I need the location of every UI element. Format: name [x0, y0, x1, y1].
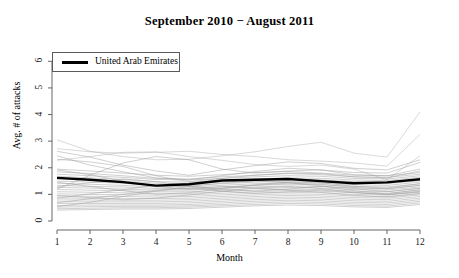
x-axis-tick-label: 12	[410, 237, 430, 247]
legend-line-swatch	[62, 61, 88, 64]
y-axis-tick-label: 1	[34, 185, 44, 201]
y-axis-tick-label: 5	[34, 79, 44, 95]
y-axis-tick-label: 0	[34, 212, 44, 228]
chart-figure: September 2010 − August 2011 Avg. # of a…	[0, 0, 459, 278]
x-axis-tick-label: 2	[80, 237, 100, 247]
x-axis-tick-label: 6	[212, 237, 232, 247]
x-axis-tick-label: 1	[47, 237, 67, 247]
x-axis-tick-label: 9	[311, 237, 331, 247]
x-axis-tick-label: 8	[278, 237, 298, 247]
y-axis-tick-label: 2	[34, 159, 44, 175]
y-axis-tick-label: 4	[34, 106, 44, 122]
x-axis-tick-label: 3	[113, 237, 133, 247]
y-axis-tick-label: 3	[34, 132, 44, 148]
x-axis-tick-label: 11	[377, 237, 397, 247]
x-axis-tick-label: 10	[344, 237, 364, 247]
x-axis-tick-label: 5	[179, 237, 199, 247]
legend-item-label: United Arab Emirates	[95, 56, 178, 66]
x-axis-label: Month	[0, 252, 459, 263]
chart-legend: United Arab Emirates	[52, 52, 180, 72]
series-layer	[57, 112, 420, 210]
y-axis-label: Avg. # of attacks	[11, 71, 22, 161]
x-axis-tick-label: 4	[146, 237, 166, 247]
chart-line-background	[57, 135, 420, 167]
y-axis-tick-label: 6	[34, 52, 44, 68]
x-axis-tick-label: 7	[245, 237, 265, 247]
